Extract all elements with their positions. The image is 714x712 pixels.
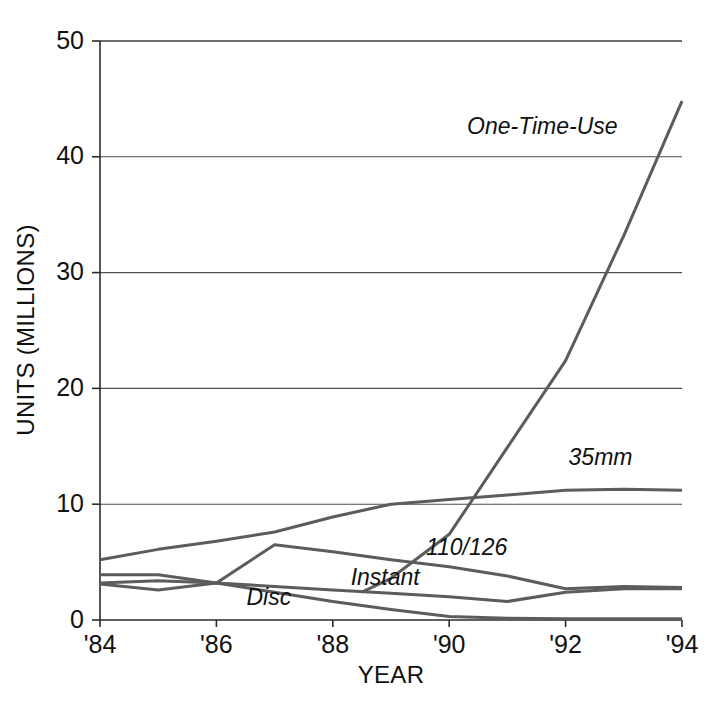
chart-container: 01020304050 '84'86'88'90'92'94 One-Time-…: [0, 0, 714, 712]
series-lines: [100, 101, 682, 619]
y-axis-tick-labels: 01020304050: [56, 26, 84, 633]
x-tick-label-1992: '92: [549, 630, 582, 658]
annotation-disc: Disc: [246, 584, 291, 610]
annotation-one-time-use: One-Time-Use: [467, 113, 618, 139]
line-chart: 01020304050 '84'86'88'90'92'94 One-Time-…: [0, 0, 714, 712]
y-axis-title: UNITS (MILLIONS): [12, 224, 39, 435]
annotation-35mm: 35mm: [569, 444, 633, 470]
y-tick-label-0: 0: [70, 605, 84, 633]
x-tick-label-1990: '90: [433, 630, 466, 658]
y-tick-label-20: 20: [56, 373, 84, 401]
y-tick-label-10: 10: [56, 489, 84, 517]
series-line-35mm: [100, 489, 682, 560]
x-axis-title: YEAR: [358, 661, 425, 688]
annotation-instant: Instant: [351, 564, 422, 590]
x-tick-label-1984: '84: [84, 630, 117, 658]
x-tick-label-1986: '86: [200, 630, 233, 658]
series-line-one-time-use: [362, 101, 682, 592]
x-tick-label-1994: '94: [666, 630, 699, 658]
y-tick-label-40: 40: [56, 141, 84, 169]
annotation-110-126: 110/126: [426, 534, 508, 560]
y-tick-label-50: 50: [56, 26, 84, 54]
x-axis-tick-labels: '84'86'88'90'92'94: [84, 630, 699, 658]
x-tick-label-1988: '88: [317, 630, 350, 658]
y-tick-label-30: 30: [56, 257, 84, 285]
series-annotations: One-Time-Use35mm110/126InstantDisc: [246, 113, 632, 610]
